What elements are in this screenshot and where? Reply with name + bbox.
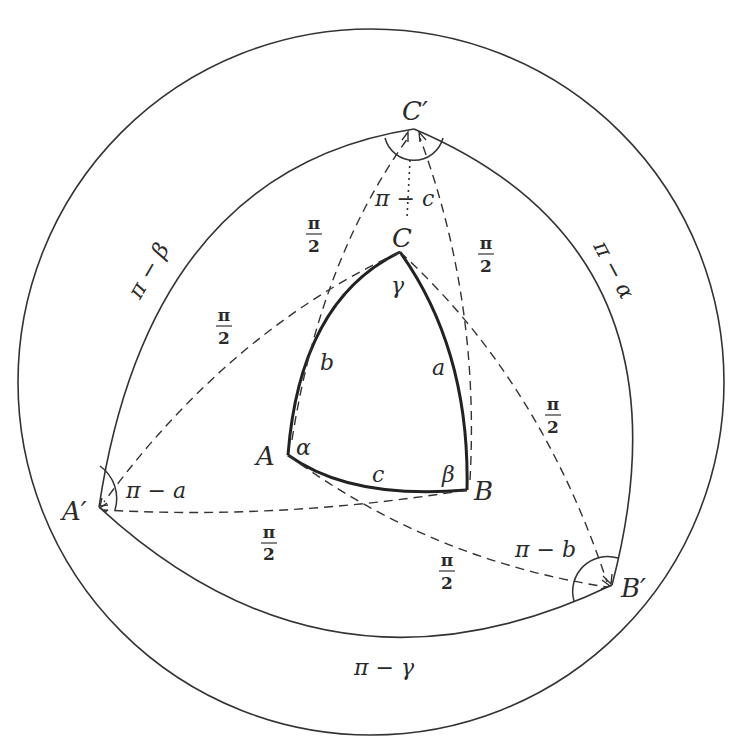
frac-pi-half-4: π 2 — [545, 394, 561, 437]
svg-text:π: π — [441, 550, 453, 570]
svg-text:2: 2 — [441, 573, 453, 593]
label-pi-minus-c: π − c — [374, 186, 434, 211]
polar-side-c-prime-b-prime — [414, 129, 633, 585]
label-gamma: γ — [391, 273, 405, 298]
frac-pi-half-2: π 2 — [478, 233, 494, 276]
svg-text:π: π — [308, 213, 320, 233]
label-alpha: α — [296, 435, 311, 460]
label-a-prime: A′ — [60, 496, 87, 526]
outer-circle — [18, 29, 724, 735]
triangle-side-b — [288, 252, 400, 455]
label-b: B — [473, 476, 493, 506]
svg-text:π: π — [263, 522, 275, 542]
svg-text:π: π — [218, 305, 230, 325]
label-pi-minus-gamma: π − γ — [353, 655, 415, 680]
label-pi-minus-a: π − a — [125, 478, 186, 503]
label-c-prime: C′ — [402, 96, 428, 126]
polar-triangle-diagram: C′ C A B A′ B′ b a c α β γ π − c π − a π… — [0, 0, 742, 745]
label-beta: β — [441, 462, 455, 487]
label-a: A — [254, 441, 275, 471]
frac-pi-half-6: π 2 — [439, 550, 455, 593]
svg-text:π: π — [480, 233, 492, 253]
svg-text:2: 2 — [218, 328, 230, 348]
label-c: C — [392, 223, 412, 253]
svg-text:2: 2 — [480, 256, 492, 276]
label-side-b: b — [320, 350, 334, 375]
label-pi-minus-alpha: π − α — [588, 236, 640, 303]
arrowhead-c-prime-left — [402, 132, 408, 142]
angle-arc-c-prime — [385, 138, 443, 160]
svg-text:2: 2 — [263, 544, 275, 564]
svg-text:2: 2 — [308, 236, 320, 256]
label-side-a: a — [432, 355, 445, 380]
label-side-c: c — [372, 462, 384, 487]
label-b-prime: B′ — [620, 573, 646, 603]
label-pi-minus-b: π − b — [514, 537, 576, 562]
label-pi-minus-beta: π − β — [122, 238, 174, 303]
svg-text:π: π — [547, 394, 559, 414]
frac-pi-half-3: π 2 — [216, 305, 232, 348]
frac-pi-half-5: π 2 — [261, 522, 277, 564]
svg-text:2: 2 — [547, 417, 559, 437]
frac-pi-half-1: π 2 — [306, 213, 322, 256]
